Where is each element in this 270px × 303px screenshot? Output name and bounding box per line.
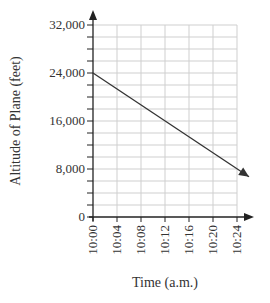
- data-series: [93, 73, 249, 177]
- x-tick-label: 10:00: [85, 225, 100, 255]
- y-axis-label: Altitude of Plane (feet): [8, 56, 24, 186]
- x-axis-arrow-icon: [244, 213, 254, 221]
- x-tick-label: 10:20: [205, 225, 220, 255]
- y-tick-label: 24,000: [49, 65, 85, 80]
- x-axis-ticks: 10:0010:0410:0810:1210:1610:2010:24: [85, 217, 244, 255]
- line-arrow-icon: [238, 168, 249, 177]
- axes: [89, 10, 254, 221]
- y-axis-arrow-icon: [89, 10, 97, 20]
- y-tick-label: 32,000: [49, 17, 85, 32]
- altitude-line: [93, 73, 249, 177]
- altitude-line-chart: 08,00016,00024,00032,000 10:0010:0410:08…: [0, 0, 270, 303]
- y-axis-ticks: 08,00016,00024,00032,000: [49, 17, 93, 224]
- y-tick-label: 0: [79, 209, 86, 224]
- y-tick-label: 16,000: [49, 113, 85, 128]
- x-tick-label: 10:16: [181, 225, 196, 255]
- x-axis-label: Time (a.m.): [132, 275, 198, 291]
- y-tick-label: 8,000: [56, 161, 85, 176]
- x-tick-label: 10:24: [229, 225, 244, 255]
- x-tick-label: 10:08: [133, 225, 148, 255]
- x-tick-label: 10:12: [157, 225, 172, 255]
- x-tick-label: 10:04: [109, 225, 124, 255]
